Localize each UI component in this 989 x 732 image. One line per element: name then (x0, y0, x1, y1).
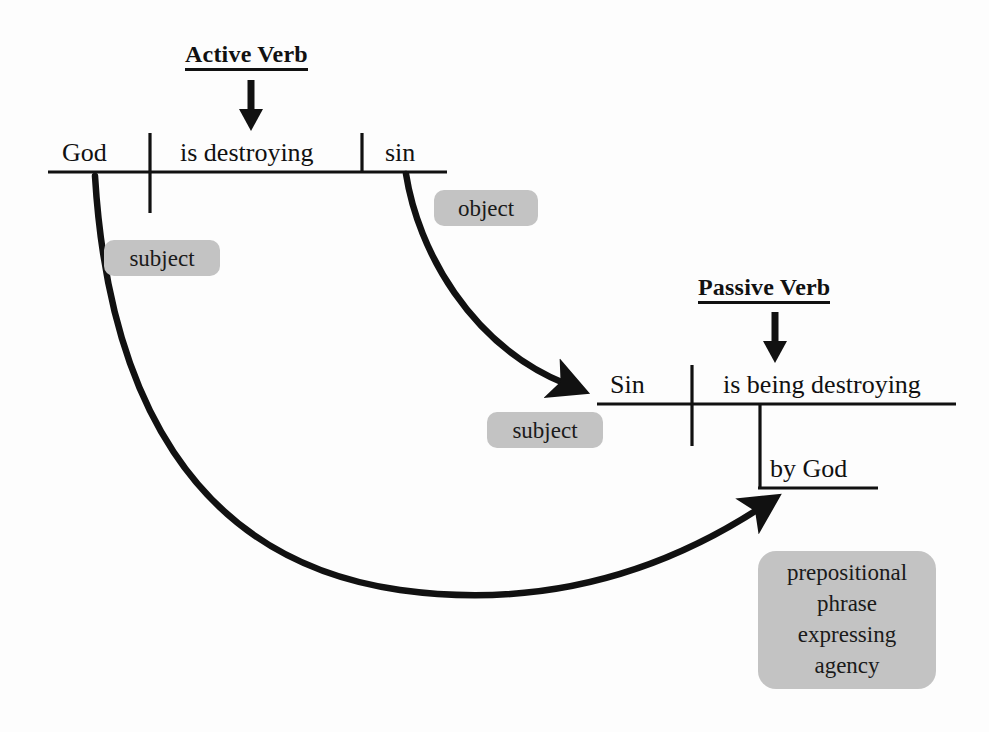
annotation-prepositional-phrase: prepositional phrase expressing agency (758, 551, 936, 689)
annotation-prep-line-4: agency (814, 651, 879, 682)
annotation-subject-active: subject (104, 240, 220, 276)
active-subject-word: God (62, 140, 107, 166)
passive-verb-callout-label: Passive Verb (698, 275, 830, 304)
active-object-word: sin (385, 140, 415, 166)
active-verb-callout-label: Active Verb (185, 42, 308, 71)
active-verb-word: is destroying (180, 140, 314, 166)
annotation-prep-line-1: prepositional (787, 558, 907, 589)
annotation-object: object (434, 190, 538, 226)
annotation-prep-line-2: phrase (817, 589, 877, 620)
sentence-diagram-figure: Active Verb God is destroying sin Passiv… (0, 0, 989, 732)
passive-verb-word: is being destroying (723, 372, 921, 398)
prepositional-phrase-word: by God (770, 456, 847, 482)
annotation-subject-passive: subject (487, 412, 603, 448)
annotation-prep-line-3: expressing (798, 620, 896, 651)
passive-subject-word: Sin (610, 372, 645, 398)
subject-to-agency-arrow (95, 176, 760, 595)
